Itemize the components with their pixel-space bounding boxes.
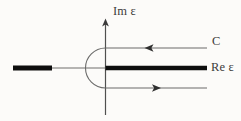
contour-diagram-figure: Im ε Re ε C [0,0,241,121]
contour-label: C [212,35,221,48]
contour-diagram-canvas [0,0,241,121]
imaginary-axis-label: Im ε [113,5,136,18]
real-axis-label: Re ε [211,61,234,74]
